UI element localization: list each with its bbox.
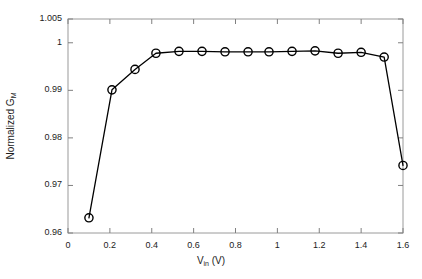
series-line [89, 51, 403, 218]
y-tick-label: 0.97 [12, 180, 62, 189]
x-tick-label: 0 [48, 241, 88, 250]
x-tick-label: 0.8 [216, 241, 256, 250]
figure-container: 0.960.970.980.9911.005 00.20.40.60.811.2… [0, 0, 422, 279]
data-point-marker [311, 47, 319, 55]
x-axis-title-subscript: in [204, 260, 209, 267]
y-tick-label: 0.96 [12, 228, 62, 237]
data-point-marker [265, 48, 273, 56]
x-tick-label: 1 [257, 241, 297, 250]
y-tick-label: 0.99 [12, 85, 62, 94]
x-tick-label: 1.4 [341, 241, 381, 250]
y-tick-label: 1.005 [12, 14, 62, 23]
x-axis-ticks [68, 19, 403, 233]
y-axis-title-subscript: M [10, 93, 17, 99]
y-axis-title-main: Normalized G [5, 98, 16, 159]
chart-plot-svg [0, 0, 422, 279]
data-point-marker [357, 48, 365, 56]
x-tick-label: 0.2 [90, 241, 130, 250]
x-axis-title-unit: (V) [209, 255, 225, 266]
data-point-marker [334, 49, 342, 57]
data-point-marker [85, 214, 93, 222]
y-axis-title: Normalized GM [5, 93, 16, 160]
data-point-marker [380, 53, 388, 61]
x-tick-label: 0.4 [132, 241, 172, 250]
x-tick-label: 1.6 [383, 241, 422, 250]
x-tick-label: 0.6 [174, 241, 214, 250]
data-point-marker [175, 47, 183, 55]
data-point-marker [244, 48, 252, 56]
data-point-marker [221, 48, 229, 56]
y-tick-label: 0.98 [12, 133, 62, 142]
data-point-marker [399, 161, 407, 169]
data-point-marker [152, 49, 160, 57]
plot-axes-box [68, 19, 403, 233]
x-axis-title-main: V [197, 255, 204, 266]
y-tick-label: 1 [12, 38, 62, 47]
x-axis-title: Vin (V) [197, 256, 225, 266]
data-point-marker [198, 47, 206, 55]
data-point-marker [131, 65, 139, 73]
x-tick-label: 1.2 [299, 241, 339, 250]
data-series-group [85, 47, 407, 222]
series-markers [85, 47, 407, 222]
plot-frame [68, 19, 403, 233]
y-axis-ticks [68, 19, 403, 233]
data-point-marker [108, 86, 116, 94]
data-point-marker [288, 47, 296, 55]
